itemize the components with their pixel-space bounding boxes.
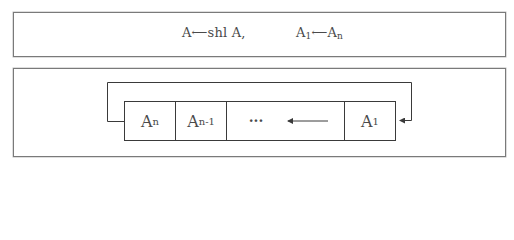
cell-sub: n-1 xyxy=(199,116,215,127)
register-cell-ellipsis: ··· xyxy=(236,101,276,141)
cell-label: A xyxy=(187,112,199,131)
cell-label: A xyxy=(361,112,373,131)
ellipsis-icon: ··· xyxy=(249,113,264,129)
cell-label: A xyxy=(141,112,153,131)
cell-sub: n xyxy=(153,116,159,127)
register-cell-an: An xyxy=(125,101,175,141)
cell-sub: 1 xyxy=(373,116,379,127)
register-cell-a1: A1 xyxy=(345,101,395,141)
register-cell-an-1: An-1 xyxy=(176,101,226,141)
